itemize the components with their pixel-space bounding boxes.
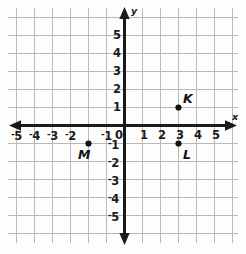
y-tick--2: 2 xyxy=(108,157,119,170)
y-tick--5: 5 xyxy=(108,211,119,224)
y-tick-3: 3 xyxy=(113,66,121,78)
x-tick-2: 2 xyxy=(158,130,166,142)
point-l-label: L xyxy=(183,149,191,162)
x-tick-5: 5 xyxy=(212,130,220,142)
x-tick--2: 2 xyxy=(65,130,76,143)
x-tick-4: 4 xyxy=(194,130,202,142)
point-k-label: K xyxy=(183,93,193,106)
y-axis-label: y xyxy=(131,6,137,16)
y-tick--3: 3 xyxy=(108,175,119,188)
coordinate-plane: y x 5 4 3 2 1 0 1 2 3 4 5 5 4 3 2 1 1 2 … xyxy=(0,0,246,254)
y-tick--1: 1 xyxy=(108,139,119,152)
x-tick--3: 3 xyxy=(47,130,58,143)
y-axis-arrow-up xyxy=(119,7,129,19)
grid-and-axes xyxy=(0,0,246,254)
y-tick-1: 1 xyxy=(113,102,121,114)
y-axis-arrow-down xyxy=(119,233,129,245)
point-m-label: M xyxy=(78,149,90,162)
x-tick-1: 1 xyxy=(140,130,148,142)
x-tick--4: 4 xyxy=(29,130,40,143)
point-k-dot xyxy=(175,104,181,110)
y-tick--4: 4 xyxy=(108,193,119,206)
x-tick--5: 5 xyxy=(11,130,22,143)
y-tick-4: 4 xyxy=(113,48,121,60)
y-tick-2: 2 xyxy=(113,84,121,96)
x-tick-3: 3 xyxy=(176,130,184,142)
x-axis-label: x xyxy=(232,112,238,122)
y-tick-5: 5 xyxy=(113,30,121,42)
point-m-dot xyxy=(85,140,91,146)
